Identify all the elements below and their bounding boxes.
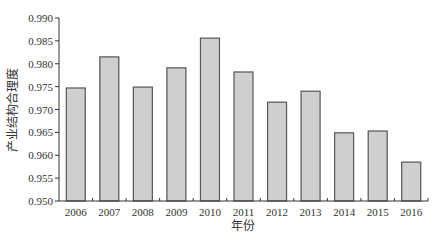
bar-2010 <box>200 38 219 201</box>
bar-2014 <box>335 133 354 201</box>
bar-2015 <box>368 131 387 201</box>
bars <box>66 38 420 201</box>
x-tick-label: 2012 <box>266 206 288 218</box>
y-tick-label: 0.955 <box>28 172 53 184</box>
bar-2007 <box>100 57 119 201</box>
bar-2009 <box>167 68 186 201</box>
x-axis-title: 年份 <box>231 219 255 233</box>
x-tick-label: 2007 <box>98 206 121 218</box>
y-tick-label: 0.965 <box>28 126 53 138</box>
bar-2013 <box>301 91 320 201</box>
x-tick-label: 2016 <box>400 206 423 218</box>
y-tick-label: 0.980 <box>28 58 53 70</box>
y-tick-label: 0.960 <box>28 149 53 161</box>
y-tick-label: 0.975 <box>28 81 53 93</box>
bar-2012 <box>268 102 287 201</box>
y-tick-label: 0.950 <box>28 195 53 207</box>
bar-2016 <box>402 162 421 201</box>
x-tick-label: 2011 <box>233 206 255 218</box>
x-tick-label: 2010 <box>199 206 222 218</box>
bar-2011 <box>234 72 253 201</box>
y-tick-label: 0.970 <box>28 104 53 116</box>
y-tick-label: 0.985 <box>28 35 53 47</box>
x-tick-label: 2006 <box>65 206 88 218</box>
y-axis-title: 产业结构合理度 <box>5 68 20 152</box>
x-tick-label: 2008 <box>132 206 155 218</box>
x-tick-label: 2014 <box>333 206 356 218</box>
bar-chart: 0.9500.9550.9600.9650.9700.9750.9800.985… <box>0 0 440 246</box>
y-axis-ticks: 0.9500.9550.9600.9650.9700.9750.9800.985… <box>28 12 59 207</box>
x-tick-label: 2015 <box>367 206 390 218</box>
bar-2006 <box>66 88 85 201</box>
y-tick-label: 0.990 <box>28 12 53 24</box>
bar-2008 <box>133 87 152 201</box>
x-tick-label: 2013 <box>300 206 323 218</box>
x-tick-label: 2009 <box>165 206 188 218</box>
